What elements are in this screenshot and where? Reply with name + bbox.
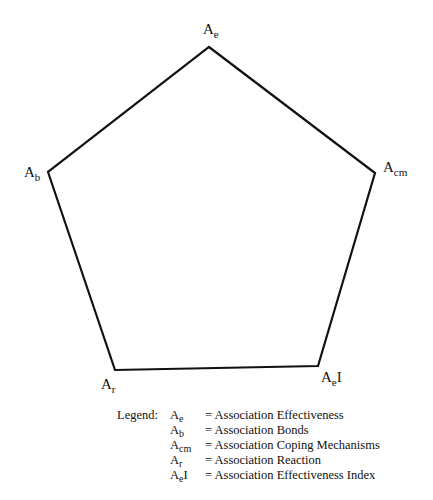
legend-item-ab: Ab= Association Bonds (170, 423, 380, 438)
vertex-label-ab: Ab (24, 165, 40, 183)
legend-description: = Association Reaction (205, 453, 321, 467)
label-sub: e (214, 28, 219, 40)
legend-symbol-base: A (170, 468, 179, 482)
legend-item-aei: AeI= Association Effectiveness Index (170, 468, 380, 483)
legend-rows: Ae= Association Effectiveness Ab= Associ… (170, 408, 380, 483)
label-sub: cm (394, 166, 407, 178)
vertex-label-ar: Ar (101, 377, 116, 395)
vertex-label-aei: AeI (321, 370, 342, 388)
legend-item-ar: Ar= Association Reaction (170, 453, 380, 468)
legend-symbol-base: A (170, 438, 179, 452)
legend-symbol-base: A (170, 423, 179, 437)
label-sub: r (112, 383, 116, 395)
label-base: A (383, 159, 394, 175)
legend-symbol-suffix: I (183, 468, 187, 482)
legend-title: Legend: (117, 408, 158, 423)
legend-symbol: AeI (170, 468, 205, 486)
legend-item-acm: Acm= Association Coping Mechanisms (170, 438, 380, 453)
legend-item-ae: Ae= Association Effectiveness (170, 408, 380, 423)
legend-symbol-base: A (170, 408, 179, 422)
legend-description: = Association Coping Mechanisms (205, 438, 380, 452)
legend-description: = Association Bonds (205, 423, 309, 437)
label-base: A (203, 21, 214, 37)
label-base: A (101, 376, 112, 392)
vertex-label-acm: Acm (383, 160, 407, 178)
label-suffix: I (337, 369, 342, 385)
legend-description: = Association Effectiveness (205, 408, 344, 422)
legend-symbol-base: A (170, 453, 179, 467)
label-base: A (24, 164, 35, 180)
vertex-label-ae: Ae (203, 22, 219, 40)
label-sub: b (35, 171, 41, 183)
label-base: A (321, 369, 332, 385)
pentagon-outline (48, 47, 375, 370)
legend-description: = Association Effectiveness Index (205, 468, 375, 482)
